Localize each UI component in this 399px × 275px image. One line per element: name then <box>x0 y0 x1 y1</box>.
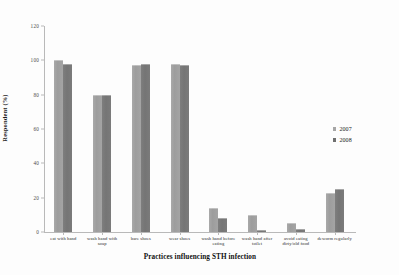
x-tick-label: wash hand before eating <box>199 236 238 247</box>
plot-area: 020406080100120 <box>44 26 354 232</box>
bar-group <box>122 26 161 232</box>
bar-2008 <box>335 189 344 232</box>
bar-2007 <box>132 65 141 232</box>
x-tick-mark <box>180 232 181 235</box>
bar-group <box>277 26 316 232</box>
x-axis-line <box>44 232 356 233</box>
bar-2008 <box>296 229 305 232</box>
bar-2008 <box>141 64 150 232</box>
chart-legend: 20072008 <box>333 126 352 143</box>
bar-2008 <box>218 218 227 232</box>
bar-2008 <box>63 64 72 232</box>
legend-label: 2007 <box>339 126 351 132</box>
bar-2008 <box>180 65 189 232</box>
bar-2007 <box>54 60 63 232</box>
x-tick-mark <box>63 232 64 235</box>
bar-group <box>238 26 277 232</box>
legend-swatch-icon <box>333 127 336 130</box>
x-tick-label: wash hand after toilet <box>238 236 277 247</box>
x-tick-mark <box>141 232 142 235</box>
x-tick-label: wash hand with soap <box>83 236 122 247</box>
bar-group <box>199 26 238 232</box>
y-axis-title: Respondent (%) <box>1 94 8 141</box>
x-tick-mark <box>296 232 297 235</box>
bar-2007 <box>287 223 296 232</box>
bar-group <box>160 26 199 232</box>
bar-2008 <box>257 230 266 232</box>
bar-2007 <box>209 208 218 232</box>
bar-groups <box>44 26 354 232</box>
x-tick-label: wear shoes <box>160 236 199 241</box>
x-tick-label: deworm regularly <box>315 236 354 241</box>
legend-label: 2008 <box>339 137 351 143</box>
bar-2007 <box>248 215 257 232</box>
x-tick-mark <box>257 232 258 235</box>
x-tick-label: avoid eating dirty/old food <box>277 236 316 247</box>
x-tick-label: eat with hand <box>44 236 83 241</box>
bar-group <box>83 26 122 232</box>
x-tick-label: bare shoes <box>122 236 161 241</box>
legend-item[interactable]: 2007 <box>333 126 352 132</box>
bar-chart: Respondent (%) Practices influencing STH… <box>0 0 399 275</box>
bar-group <box>44 26 83 232</box>
x-axis-title: Practices influencing STH infection <box>44 253 356 261</box>
bar-2008 <box>102 95 111 232</box>
bar-2007 <box>93 95 102 232</box>
x-tick-mark <box>102 232 103 235</box>
x-tick-mark <box>335 232 336 235</box>
legend-item[interactable]: 2008 <box>333 137 352 143</box>
legend-swatch-icon <box>333 138 336 141</box>
x-tick-mark <box>218 232 219 235</box>
bar-2007 <box>326 193 335 232</box>
bar-2007 <box>171 64 180 232</box>
